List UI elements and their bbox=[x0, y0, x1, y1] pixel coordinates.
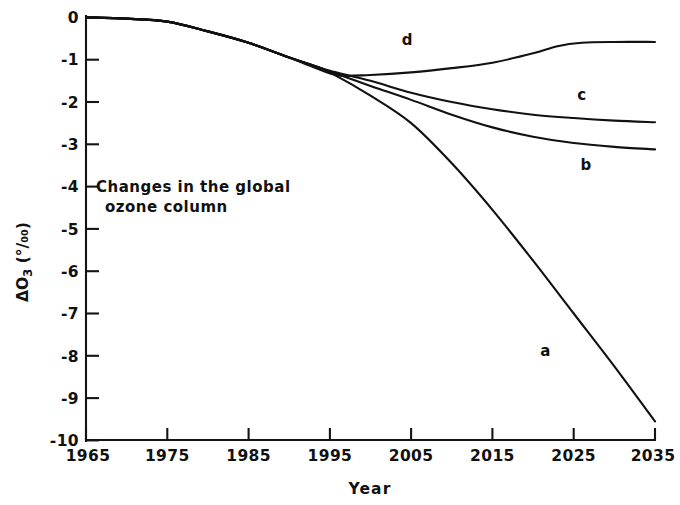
x-axis-tick-labels: 1965 1975 1985 1995 2005 2015 2025 2035 bbox=[66, 447, 676, 465]
series-line-b bbox=[86, 17, 655, 149]
x-tick-label: 2035 bbox=[631, 447, 676, 465]
chart-series-group bbox=[86, 17, 655, 421]
series-label-a: a bbox=[540, 342, 550, 360]
y-axis-title-subscript: 3 bbox=[21, 269, 35, 277]
series-labels: a b c d bbox=[402, 31, 592, 360]
annotation-line-2: ozone column bbox=[105, 198, 228, 216]
chart-annotation: Changes in the global ozone column bbox=[96, 178, 291, 216]
y-tick-label: -3 bbox=[61, 136, 79, 154]
x-tick-label: 1975 bbox=[145, 447, 190, 465]
chart-svg: 0 -1 -2 -3 -4 -5 -6 -7 -8 -9 -10 1965 19 bbox=[0, 0, 680, 505]
y-tick-label: -5 bbox=[61, 221, 79, 239]
annotation-line-1: Changes in the global bbox=[96, 178, 291, 196]
series-label-b: b bbox=[581, 156, 592, 174]
x-tick-label: 2005 bbox=[389, 447, 434, 465]
series-label-c: c bbox=[577, 86, 586, 104]
y-axis-title-delta: ΔO bbox=[14, 277, 32, 302]
svg-text:ΔO3 (°/₀₀): ΔO3 (°/₀₀) bbox=[14, 222, 35, 302]
y-tick-label: -4 bbox=[61, 178, 79, 196]
x-axis-ticks bbox=[86, 428, 655, 440]
y-axis-title-unit: (°/₀₀) bbox=[14, 222, 32, 263]
series-line-a bbox=[86, 17, 655, 421]
y-tick-label: -8 bbox=[61, 348, 79, 366]
x-tick-label: 2025 bbox=[551, 447, 596, 465]
y-tick-label: -7 bbox=[61, 305, 79, 323]
y-axis-title: ΔO3 (°/₀₀) bbox=[14, 222, 35, 302]
x-tick-label: 2015 bbox=[470, 447, 515, 465]
x-tick-label: 1965 bbox=[66, 447, 111, 465]
y-axis-ticks bbox=[86, 17, 99, 440]
y-tick-label: -1 bbox=[61, 51, 79, 69]
series-line-d bbox=[86, 17, 655, 76]
y-tick-label: -6 bbox=[61, 263, 79, 281]
series-label-d: d bbox=[402, 31, 413, 49]
series-line-c bbox=[86, 17, 655, 122]
x-tick-label: 1995 bbox=[308, 447, 353, 465]
x-tick-label: 1985 bbox=[226, 447, 271, 465]
y-axis-tick-labels: 0 -1 -2 -3 -4 -5 -6 -7 -8 -9 -10 bbox=[50, 9, 79, 450]
y-tick-label: -9 bbox=[61, 390, 79, 408]
y-tick-label: -2 bbox=[61, 94, 79, 112]
y-tick-label: 0 bbox=[68, 9, 79, 27]
ozone-change-chart: 0 -1 -2 -3 -4 -5 -6 -7 -8 -9 -10 1965 19 bbox=[0, 0, 680, 505]
x-axis-title: Year bbox=[348, 480, 392, 498]
